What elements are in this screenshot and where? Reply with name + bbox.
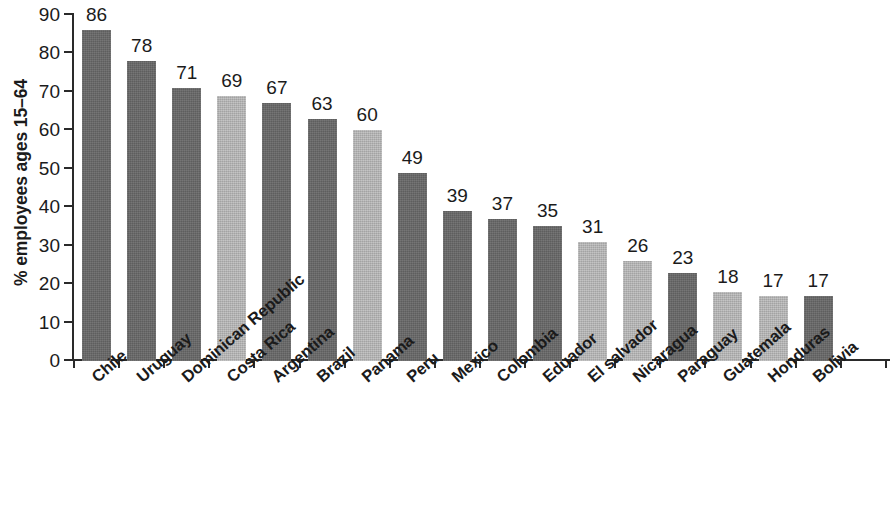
bar-value-paraguay: 23 [658, 248, 708, 267]
bar-value-panama: 60 [342, 105, 392, 124]
y-tick-label-70: 70 [20, 82, 60, 101]
y-tick-40 [64, 205, 73, 207]
bar-mexico [443, 211, 472, 361]
bar-panama [353, 130, 382, 361]
bar-value-honduras: 17 [748, 271, 798, 290]
bar-value-chile: 86 [72, 5, 122, 24]
y-tick-70 [64, 90, 73, 92]
bar-value-mexico: 39 [432, 186, 482, 205]
bar-value-uruguay: 78 [117, 36, 167, 55]
bar-value-dominican-republic: 71 [162, 63, 212, 82]
bar-value-peru: 49 [387, 148, 437, 167]
bar-value-el-salvador: 31 [568, 217, 618, 236]
bar-value-eduador: 35 [523, 201, 573, 220]
y-tick-label-60: 60 [20, 120, 60, 139]
y-tick-label-80: 80 [20, 43, 60, 62]
x-tick-0 [73, 359, 75, 368]
y-tick-60 [64, 128, 73, 130]
y-tick-label-50: 50 [20, 159, 60, 178]
y-tick-80 [64, 51, 73, 53]
y-tick-label-90: 90 [20, 5, 60, 24]
y-tick-20 [64, 282, 73, 284]
bar-value-nicaragua: 26 [613, 236, 663, 255]
y-tick-30 [64, 244, 73, 246]
bar-uruguay [127, 61, 156, 361]
bar-chile [82, 30, 111, 361]
bar-chart: % employees ages 15–64 01020304050607080… [0, 0, 893, 512]
bar-value-costa-rica: 69 [207, 71, 257, 90]
y-tick-label-10: 10 [20, 313, 60, 332]
y-tick-0 [64, 359, 73, 361]
bar-value-bolivia: 17 [793, 271, 843, 290]
y-tick-label-40: 40 [20, 197, 60, 216]
bar-value-guatemala: 18 [703, 267, 753, 286]
bar-value-brazil: 63 [297, 94, 347, 113]
y-tick-10 [64, 321, 73, 323]
bar-value-argentina: 67 [252, 78, 302, 97]
x-tick-18 [885, 359, 887, 368]
y-tick-label-0: 0 [20, 351, 60, 370]
bar-value-colombia: 37 [477, 194, 527, 213]
bar-dominican-republic [172, 88, 201, 361]
y-tick-50 [64, 167, 73, 169]
y-tick-label-30: 30 [20, 236, 60, 255]
y-tick-label-20: 20 [20, 274, 60, 293]
y-axis-line [72, 13, 74, 361]
